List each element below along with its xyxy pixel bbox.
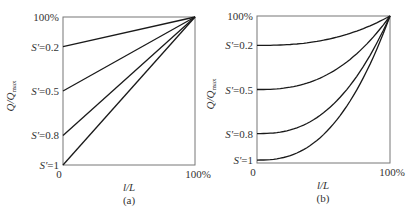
x-tick-0-b: 0	[250, 166, 256, 178]
series-line	[257, 16, 390, 90]
curves-b	[257, 16, 390, 160]
series-label: S′=0.5	[31, 85, 59, 97]
series-line	[63, 17, 195, 47]
y-axis-label-sub-a: max	[10, 80, 18, 93]
series-labels-b: S′=0.2S′=0.5S′=0.8S′=1	[225, 39, 253, 166]
y-axis-label-sub-b: max	[210, 78, 218, 91]
panel-a: 100% S′=0.2S′=0.5S′=0.8S′=1 0 100% l/L (…	[4, 11, 211, 207]
y-top-tick-a: 100%	[33, 11, 59, 23]
series-label: S′=1	[233, 154, 253, 166]
series-line	[63, 17, 195, 135]
x-tick-100-a: 100%	[185, 168, 211, 180]
series-line	[257, 16, 390, 134]
x-axis-label-b: l/L	[317, 179, 329, 191]
figure: 100% S′=0.2S′=0.5S′=0.8S′=1 0 100% l/L (…	[0, 0, 419, 220]
series-line	[63, 17, 195, 91]
series-labels-a: S′=0.2S′=0.5S′=0.8S′=1	[31, 41, 59, 171]
y-axis-label-main-b: Q/Q	[204, 91, 216, 110]
x-tick-100-b: 100%	[379, 166, 405, 178]
series-label: S′=0.8	[225, 128, 253, 140]
series-label: S′=0.8	[31, 129, 59, 141]
panel-b: 100% S′=0.2S′=0.5S′=0.8S′=1 0 100% l/L (…	[204, 10, 405, 205]
y-axis-label-b: Q/Qmax	[204, 78, 218, 110]
y-axis-label-main-a: Q/Q	[4, 93, 16, 112]
y-top-tick-b: 100%	[227, 10, 253, 22]
x-axis-label-a: l/L	[123, 181, 135, 193]
series-line	[63, 17, 195, 165]
x-tick-0-a: 0	[56, 168, 62, 180]
series-line	[257, 16, 390, 160]
caption-a: (a)	[123, 194, 136, 207]
y-axis-label-a: Q/Qmax	[4, 80, 18, 112]
series-label: S′=0.2	[225, 39, 253, 51]
curves-a	[63, 17, 195, 165]
series-label: S′=0.2	[31, 41, 59, 53]
caption-b: (b)	[317, 192, 330, 205]
series-label: S′=0.5	[225, 84, 253, 96]
